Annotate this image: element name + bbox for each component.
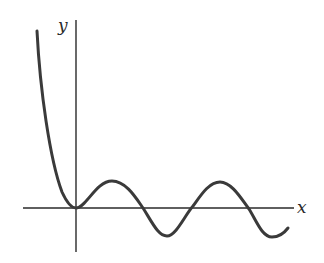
y-axis-label: y xyxy=(58,17,68,34)
graph-svg xyxy=(0,0,324,263)
function-graph: y x xyxy=(0,0,324,263)
x-axis-label: x xyxy=(297,199,307,216)
function-curve xyxy=(37,31,288,237)
